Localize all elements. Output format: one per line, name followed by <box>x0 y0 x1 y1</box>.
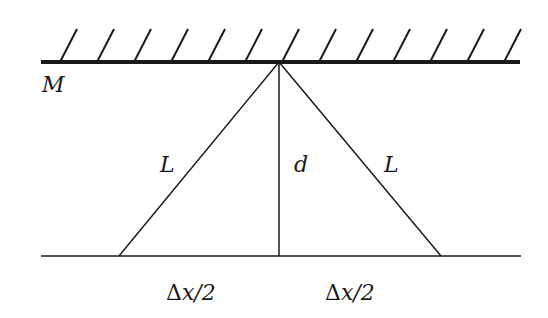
right-half-distance-label: Δx/2 <box>325 280 375 305</box>
hatch-mark <box>60 29 77 62</box>
hatch-mark <box>319 29 336 62</box>
height-label: d <box>294 152 308 177</box>
half-x-text: x/2 <box>341 280 375 305</box>
delta-symbol: Δ <box>325 280 341 305</box>
left-half-distance-label: Δx/2 <box>166 280 216 305</box>
hatch-mark <box>282 29 299 62</box>
hatch-mark <box>356 29 373 62</box>
half-x-text: x/2 <box>182 280 216 305</box>
hatch-mark <box>393 29 410 62</box>
left-side-label: L <box>159 152 175 177</box>
hatch-mark <box>208 29 225 62</box>
left-side-line <box>119 62 279 256</box>
hatch-mark <box>245 29 262 62</box>
mirror-geometry-diagram: M L d L Δx/2 Δx/2 <box>0 0 548 318</box>
hatch-mark <box>97 29 114 62</box>
hatch-mark <box>467 29 484 62</box>
right-side-label: L <box>383 152 399 177</box>
hatch-mark <box>171 29 188 62</box>
mirror-label: M <box>41 72 65 97</box>
hatch-mark <box>504 29 521 62</box>
hatch-mark <box>430 29 447 62</box>
hatch-mark <box>134 29 151 62</box>
delta-symbol: Δ <box>166 280 182 305</box>
mirror-hatching <box>60 29 521 62</box>
